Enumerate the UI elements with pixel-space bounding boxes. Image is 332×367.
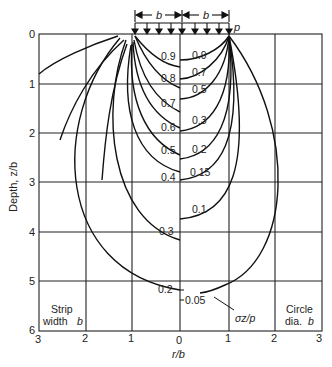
svg-text:0.9: 0.9 [192, 49, 207, 61]
svg-text:3: 3 [29, 176, 35, 188]
svg-text:2: 2 [29, 127, 35, 139]
x-axis-ticks: 3 2 1 0 1 2 3 [35, 332, 322, 346]
stress-isobar-diagram: b b p 0.9 0.8 0.7 0.6 0.5 0.4 0.3 0.2 [0, 0, 332, 367]
svg-text:0.5: 0.5 [161, 144, 176, 156]
circle-caption-line2: dia. [285, 315, 302, 327]
circle-caption-var: b [308, 315, 314, 327]
svg-text:0: 0 [176, 334, 182, 346]
svg-text:0.5: 0.5 [192, 83, 207, 95]
svg-text:0.7: 0.7 [192, 66, 207, 78]
y-axis-label: Depth, z/b [7, 162, 19, 212]
circle-caption-line1: Circle [286, 303, 313, 315]
strip-caption-var: b [77, 315, 83, 327]
strip-caption-line2: width [42, 315, 68, 327]
strip-labels: 0.9 0.8 0.7 0.6 0.5 0.4 0.3 0.2 [158, 50, 176, 295]
svg-text:0.4: 0.4 [161, 171, 176, 183]
svg-text:3: 3 [35, 333, 41, 345]
svg-text:1: 1 [225, 332, 231, 344]
stress-label: σz/p [235, 312, 255, 324]
svg-text:0: 0 [29, 28, 35, 40]
svg-text:2: 2 [271, 332, 277, 344]
svg-text:0.1: 0.1 [192, 203, 207, 215]
svg-text:0.3: 0.3 [159, 225, 174, 237]
svg-text:2: 2 [82, 332, 88, 344]
svg-text:0.8: 0.8 [161, 72, 176, 84]
load-arrows [132, 10, 232, 34]
strip-caption-line1: Strip [51, 303, 73, 315]
dimension-right-label: b [203, 9, 209, 21]
svg-text:1: 1 [29, 78, 35, 90]
x-axis-label: r/b [172, 348, 185, 360]
y-axis-ticks: 0 1 2 3 4 5 6 [29, 28, 35, 336]
strip-isobars [39, 36, 180, 290]
dimension-left-label: b [156, 9, 162, 21]
load-label: p [233, 21, 240, 33]
svg-text:0.6: 0.6 [161, 121, 176, 133]
svg-text:0.9: 0.9 [161, 50, 176, 62]
svg-text:0.05: 0.05 [185, 294, 206, 306]
svg-text:5: 5 [29, 275, 35, 287]
svg-text:1: 1 [128, 332, 134, 344]
svg-text:0.2: 0.2 [192, 143, 207, 155]
svg-text:0.2: 0.2 [158, 283, 173, 295]
svg-text:0.15: 0.15 [190, 166, 211, 178]
svg-text:4: 4 [29, 226, 35, 238]
svg-text:0.7: 0.7 [161, 97, 176, 109]
svg-text:0.3: 0.3 [192, 114, 207, 126]
svg-text:3: 3 [316, 332, 322, 344]
